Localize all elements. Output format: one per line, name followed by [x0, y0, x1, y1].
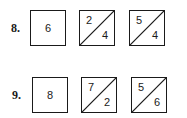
split-top-number: 7	[88, 82, 94, 93]
whole-number: 6	[31, 23, 65, 34]
split-top-number: 2	[86, 15, 92, 26]
problem-number: 8.	[11, 21, 20, 36]
whole-number-box: 6	[30, 10, 66, 46]
split-box: 5 4	[129, 10, 165, 46]
whole-number: 8	[33, 90, 67, 101]
split-top-number: 5	[138, 82, 144, 93]
split-bottom-number: 2	[104, 97, 110, 108]
split-box: 5 6	[131, 77, 167, 113]
split-box: 2 4	[79, 10, 115, 46]
split-top-number: 5	[136, 15, 142, 26]
split-bottom-number: 4	[152, 30, 158, 41]
problem-number: 9.	[12, 88, 21, 103]
split-box: 7 2	[81, 77, 117, 113]
split-bottom-number: 4	[102, 30, 108, 41]
whole-number-box: 8	[32, 77, 68, 113]
split-bottom-number: 6	[154, 97, 160, 108]
